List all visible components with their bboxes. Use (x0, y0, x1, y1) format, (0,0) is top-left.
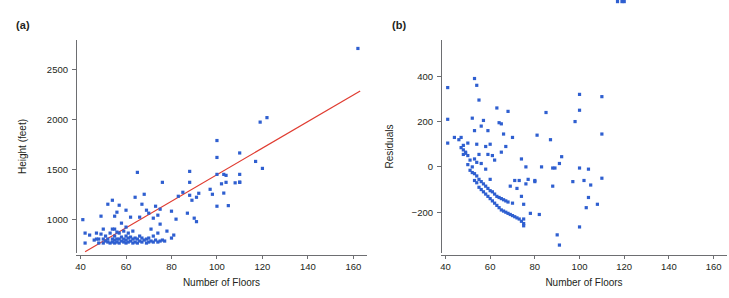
data-point (500, 122, 503, 125)
x-tick-label: 140 (300, 261, 316, 272)
data-point (99, 232, 102, 235)
data-point (520, 195, 523, 198)
y-axis-title: Residuals (384, 125, 395, 169)
x-tick-label: 40 (440, 261, 451, 272)
data-point (535, 134, 538, 137)
data-point (265, 116, 268, 119)
data-point (111, 199, 114, 202)
data-point (170, 236, 173, 239)
data-point (156, 231, 159, 234)
data-point (471, 165, 474, 168)
data-point (195, 220, 198, 223)
data-point (553, 166, 556, 169)
data-point (446, 142, 449, 145)
y-tick-label: 200 (417, 116, 433, 127)
data-point (464, 151, 467, 154)
data-point (113, 234, 116, 237)
data-point (489, 178, 492, 181)
data-point (475, 84, 478, 87)
data-point (468, 158, 471, 161)
data-point (578, 166, 581, 169)
data-point (97, 237, 100, 240)
data-point (616, 0, 619, 3)
data-point (138, 216, 141, 219)
data-point (506, 200, 509, 203)
data-point (509, 185, 512, 188)
data-point (145, 209, 148, 212)
data-point (524, 165, 527, 168)
data-point (181, 191, 184, 194)
x-tick-label: 80 (166, 261, 177, 272)
data-point (473, 77, 476, 80)
x-tick-label: 160 (345, 261, 361, 272)
data-point (522, 203, 525, 206)
data-point (193, 217, 196, 220)
data-point (102, 228, 105, 231)
data-point (134, 196, 137, 199)
data-point (462, 144, 465, 147)
data-point (475, 181, 478, 184)
data-point (147, 236, 150, 239)
data-point (533, 179, 536, 182)
data-point (215, 139, 218, 142)
x-tick-label: 60 (121, 261, 132, 272)
data-point (113, 215, 116, 218)
data-point (571, 180, 574, 183)
data-point (527, 178, 530, 181)
data-point (623, 0, 626, 3)
data-point (515, 187, 518, 190)
data-point (600, 177, 603, 180)
data-point (209, 188, 212, 191)
data-point (163, 239, 166, 242)
data-point (556, 233, 559, 236)
data-point (475, 143, 478, 146)
data-point (587, 168, 590, 171)
data-point (477, 153, 480, 156)
data-point (578, 225, 581, 228)
data-point (115, 211, 118, 214)
data-point (143, 193, 146, 196)
data-point (524, 182, 527, 185)
data-point (582, 179, 585, 182)
data-point (522, 224, 525, 227)
x-tick-label: 120 (616, 261, 632, 272)
data-point (120, 222, 123, 225)
data-point (95, 231, 98, 234)
data-point (511, 202, 514, 205)
data-point (124, 209, 127, 212)
data-point (177, 195, 180, 198)
data-point (215, 205, 218, 208)
data-point (224, 174, 227, 177)
data-point (596, 203, 599, 206)
data-point (159, 223, 162, 226)
y-axis-title: Height (feet) (17, 119, 28, 174)
data-point (186, 212, 189, 215)
data-point (477, 98, 480, 101)
data-point (473, 157, 476, 160)
data-point (446, 86, 449, 89)
x-tick-label: 60 (485, 261, 496, 272)
data-point (118, 204, 121, 207)
data-point (585, 206, 588, 209)
data-point (159, 208, 162, 211)
data-point (254, 160, 257, 163)
data-point (538, 213, 541, 216)
panel-a-plot: 1000150020002500406080100120140160Number… (0, 0, 368, 298)
data-point (152, 234, 155, 237)
data-point (486, 153, 489, 156)
data-point (161, 181, 164, 184)
x-tick-label: 160 (706, 261, 722, 272)
data-point (578, 109, 581, 112)
data-point (356, 47, 359, 50)
data-point (227, 204, 230, 207)
data-point (197, 192, 200, 195)
data-point (136, 171, 139, 174)
data-point (188, 194, 191, 197)
data-point (480, 125, 483, 128)
x-tick-label: 80 (530, 261, 541, 272)
data-point (544, 111, 547, 114)
data-point (558, 162, 561, 165)
data-point (147, 212, 150, 215)
data-point (238, 181, 241, 184)
data-point (224, 181, 227, 184)
